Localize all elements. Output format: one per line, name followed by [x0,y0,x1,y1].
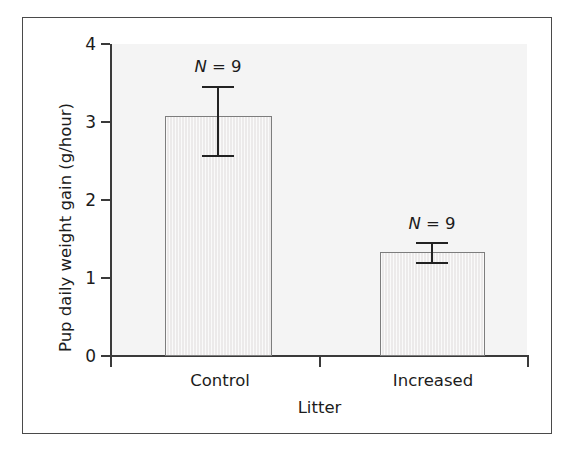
n-annotation-increased-value: = 9 [421,214,456,233]
error-bar-cap-lower-control [202,155,234,157]
y-tick-mark-2 [101,199,110,201]
x-tick-mark-right [527,357,529,367]
error-bar-cap-lower-increased [416,262,448,264]
y-axis-line [110,44,112,356]
figure-container: 4 3 2 1 0 Pup daily weight gain (g/hour)… [0,0,578,452]
n-annotation-increased-symbol: N [408,214,420,233]
y-tick-label-4: 4 [56,34,96,54]
y-tick-mark-3 [101,121,110,123]
n-annotation-control-symbol: N [194,57,206,76]
x-tick-label-increased: Increased [363,371,503,390]
error-bar-cap-upper-control [202,86,234,88]
bar-increased [380,252,485,356]
x-tick-label-control: Control [150,371,290,390]
error-bar-cap-upper-increased [416,242,448,244]
y-tick-mark-0 [101,355,110,357]
x-axis-title: Litter [110,398,529,417]
y-tick-mark-4 [101,43,110,45]
error-bar-stem-increased [431,242,433,263]
x-tick-mark-left [110,357,112,367]
y-axis-title: Pup daily weight gain (g/hour) [56,103,75,352]
n-annotation-increased: N = 9 [372,214,492,233]
y-tick-mark-1 [101,277,110,279]
error-bar-stem-control [217,86,219,156]
x-tick-mark-center [319,357,321,367]
n-annotation-control: N = 9 [158,57,278,76]
n-annotation-control-value: = 9 [207,57,242,76]
